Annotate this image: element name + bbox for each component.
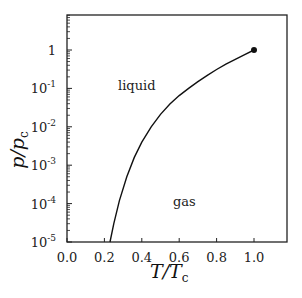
y-tick-label: 1 <box>48 43 56 58</box>
y-tick-label: 10-5 <box>31 233 57 250</box>
y-tick-label: 10-4 <box>31 195 57 212</box>
x-tick-label: 0.0 <box>57 250 78 265</box>
x-tick-label: 0.8 <box>206 250 227 265</box>
x-tick-label: 0.2 <box>94 250 115 265</box>
phase-diagram: 10-510-410-310-210-11 0.00.20.40.60.81.0… <box>0 0 302 298</box>
critical-point-marker <box>251 47 257 53</box>
y-tick-label: 10-3 <box>31 156 57 173</box>
liquid-label: liquid <box>118 78 156 93</box>
y-axis-title: p/pc <box>6 131 31 169</box>
y-tick-label: 10-2 <box>31 118 56 135</box>
gas-label: gas <box>173 194 196 209</box>
y-axis-ticks: 10-510-410-310-210-11 <box>31 15 72 250</box>
x-tick-label: 1.0 <box>244 250 265 265</box>
y-tick-label: 10-1 <box>31 79 56 96</box>
